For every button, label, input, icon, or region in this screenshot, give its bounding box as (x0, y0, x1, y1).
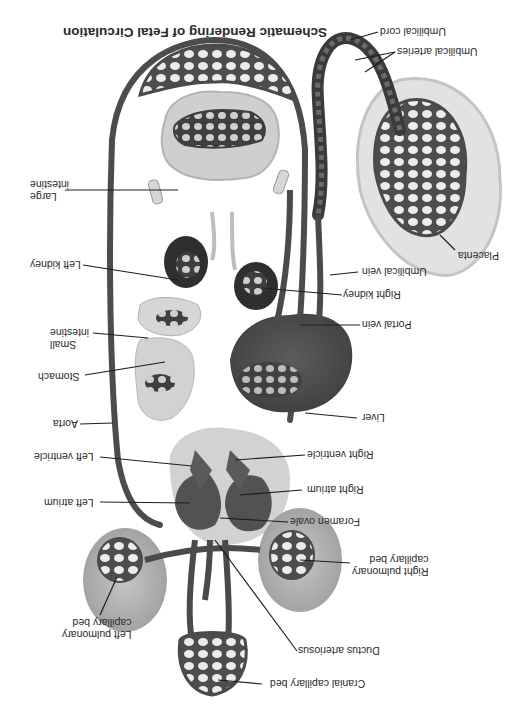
label-left-atrium: Left atrium (44, 497, 94, 509)
label-left-ventricle: Left ventricle (34, 451, 94, 463)
label-right-kidney: Right kidney (343, 289, 401, 301)
label-placenta: Placenta (458, 250, 499, 262)
stomach (135, 338, 194, 420)
liver (230, 314, 352, 413)
label-aorta: Aorta (53, 418, 78, 430)
label-umbilical-vein: Umbilical vein (362, 266, 427, 278)
figure-title: Schematic Rendering of Fetal Circulation (63, 25, 327, 40)
label-right-pulmonary-capillary-bed: Right pulmonary capillary bed (352, 554, 428, 578)
label-left-pulmonary-capillary-bed: Left pulmonary capillary bed (62, 617, 131, 641)
label-right-ventricle: Right ventricle (307, 449, 374, 461)
label-liver: Liver (362, 412, 385, 424)
label-left-kidney: Left kidney (30, 259, 81, 271)
label-ductus-arteriosus: Ductus arteriosus (298, 645, 380, 657)
label-large-intestine: Large intestine (30, 179, 69, 203)
large-intestine (148, 92, 290, 205)
label-umbilical-arteries: Umbilical arteries (397, 46, 478, 58)
ureters (212, 212, 235, 270)
left-kidney (164, 236, 208, 288)
small-intestine (138, 298, 201, 336)
label-umbilical-cord: Umbilical cord (380, 26, 446, 38)
label-stomach: Stomach (38, 371, 79, 383)
label-right-atrium: Right atrium (307, 484, 364, 496)
placenta (357, 78, 500, 275)
label-cranial-capillary-bed: Cranial capillary bed (270, 678, 365, 690)
label-foramen-ovale: Foramen ovale (290, 516, 360, 528)
label-small-intestine: Small intestine (50, 327, 89, 351)
cranial-capillary-bed (179, 633, 246, 696)
fetal-circulation-diagram (0, 0, 526, 720)
right-kidney (234, 262, 278, 310)
label-portal-vein: Portal vein (362, 319, 412, 331)
